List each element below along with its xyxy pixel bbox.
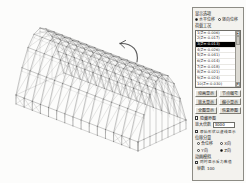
frames-row: 帧数 100 xyxy=(197,166,241,171)
radio-label: 竖向位移 xyxy=(222,17,238,22)
scrollbar-thumb[interactable] xyxy=(236,36,241,45)
radio-label: Y向 xyxy=(201,148,207,153)
scale-factor-row: 放大倍数 xyxy=(195,122,241,128)
scroll-down-icon[interactable]: ▼ xyxy=(236,82,241,87)
dashed-original-label: 原始形状以虚线显示 xyxy=(200,130,236,134)
radio-icon[interactable] xyxy=(218,18,221,21)
list-scrollbar[interactable]: ▲ ▼ xyxy=(235,31,241,87)
display-type-radios: 水平位移竖向位移 xyxy=(195,17,241,22)
loadcase-label: 荷载工况 xyxy=(195,23,241,28)
reset-view-button[interactable]: 恢复原图 xyxy=(219,107,241,114)
loadcase-list[interactable]: 1(Z=-0.006)2(Z=-0.017)3(Z=-0.013)4(Z=-0.… xyxy=(195,30,241,88)
loadcase-items: 1(Z=-0.006)2(Z=-0.017)3(Z=-0.013)4(Z=-0.… xyxy=(196,31,235,87)
hide-original-label: 隐藏原图 xyxy=(200,116,216,121)
loadcase-item[interactable]: 10(Z=-0.030) xyxy=(196,82,235,87)
dashed-original-checkbox[interactable] xyxy=(195,130,198,133)
hide-original-checkbox[interactable] xyxy=(195,116,198,119)
display-type-label: 显示选项 xyxy=(195,11,241,16)
component-radios: 合位移X向Y向Z向 xyxy=(197,141,241,153)
radio-icon[interactable] xyxy=(197,149,200,152)
component-radio-3[interactable]: Z向 xyxy=(220,148,241,153)
radio-label: 水平位移 xyxy=(199,17,215,22)
reaction-values-label: 同时显示反力数值 xyxy=(200,160,232,164)
hide-original-checkbox-row[interactable]: 隐藏原图 xyxy=(195,116,241,121)
radio-label: 合位移 xyxy=(201,141,213,146)
node-number-button[interactable]: 节点编号 xyxy=(219,90,241,97)
scrollbar-track[interactable] xyxy=(236,45,241,82)
scroll-up-icon[interactable]: ▲ xyxy=(236,31,241,36)
zoom-in-button[interactable]: 放大显示 xyxy=(195,98,217,105)
scale-factor-label: 放大倍数 xyxy=(195,122,211,127)
frames-value: 100 xyxy=(207,166,215,171)
fit-view-button[interactable]: 全图显示 xyxy=(195,107,217,114)
action-buttons: 动画显示节点编号放大显示缩小显示全图显示恢复原图 xyxy=(195,90,241,114)
animate-button[interactable]: 动画显示 xyxy=(195,90,217,97)
component-radio-2[interactable]: Y向 xyxy=(197,148,218,153)
radio-icon[interactable] xyxy=(220,149,223,152)
component-radio-1[interactable]: X向 xyxy=(220,141,241,146)
reaction-values-checkbox[interactable] xyxy=(195,161,198,164)
display-radio-0[interactable]: 水平位移 xyxy=(195,17,215,22)
component-group-label: 位移分量 xyxy=(195,135,241,140)
displacement-dialog: 显示选项 水平位移竖向位移 荷载工况 1(Z=-0.006)2(Z=-0.017… xyxy=(192,7,244,181)
radio-icon[interactable] xyxy=(220,142,223,145)
radio-icon[interactable] xyxy=(195,18,198,21)
zoom-out-button[interactable]: 缩小显示 xyxy=(219,98,241,105)
scale-factor-input[interactable] xyxy=(213,122,235,128)
reaction-values-checkbox-row[interactable]: 同时显示反力数值 xyxy=(195,160,241,164)
animation-group-label: 动画模拟 xyxy=(195,154,241,159)
radio-label: Z向 xyxy=(224,148,231,153)
frames-label: 帧数 xyxy=(197,166,205,171)
radio-label: X向 xyxy=(224,141,231,146)
component-radio-0[interactable]: 合位移 xyxy=(197,141,218,146)
radio-icon[interactable] xyxy=(197,142,200,145)
dashed-original-checkbox-row[interactable]: 原始形状以虚线显示 xyxy=(195,130,241,134)
display-radio-1[interactable]: 竖向位移 xyxy=(218,17,238,22)
